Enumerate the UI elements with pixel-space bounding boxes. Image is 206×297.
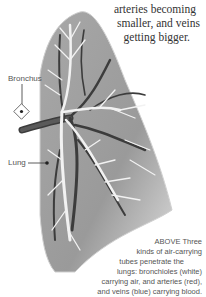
- caption-line: and veins (blue) carrying blood.: [22, 287, 202, 297]
- caption-line: kinds of air-carrying: [22, 247, 202, 257]
- top-caption-line: getting bigger.: [76, 30, 190, 44]
- top-caption: arteries becoming smaller, and veins get…: [76, 2, 196, 44]
- caption-line: ABOVE Three: [22, 237, 202, 247]
- lung-label: Lung: [8, 158, 26, 167]
- top-caption-line: smaller, and veins: [76, 16, 200, 30]
- bronchus-label: Bronchus: [8, 74, 42, 83]
- bronchus-pointer: [14, 84, 30, 119]
- caption-line: carrying air, and arteries (red),: [22, 277, 202, 287]
- top-caption-line: arteries becoming: [76, 2, 196, 16]
- caption-line: tubes penetrate the: [22, 257, 184, 267]
- figure-caption: ABOVE Three kinds of air-carrying tubes …: [22, 237, 202, 297]
- caption-line: lungs: bronchioles (white): [22, 267, 202, 277]
